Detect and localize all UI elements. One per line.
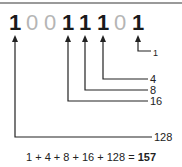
connector-bit7 <box>15 40 152 137</box>
arrowhead-icon <box>135 35 141 42</box>
arrowhead-icon <box>82 35 88 42</box>
connector-bit4 <box>68 40 148 101</box>
sum-equation: 1 + 4 + 8 + 16 + 128 = 157 <box>0 151 182 163</box>
place-value-label-16: 16 <box>150 96 162 107</box>
connector-bit2 <box>103 40 148 79</box>
place-value-label-1: 1 <box>153 48 158 59</box>
arrowhead-icon <box>100 35 106 42</box>
equation-terms: 1 + 4 + 8 + 16 + 128 = <box>26 151 135 163</box>
arrowhead-icon <box>65 35 71 42</box>
place-value-label-128: 128 <box>154 132 172 143</box>
arrowhead-icon <box>12 35 18 42</box>
equation-result: 157 <box>138 151 156 163</box>
